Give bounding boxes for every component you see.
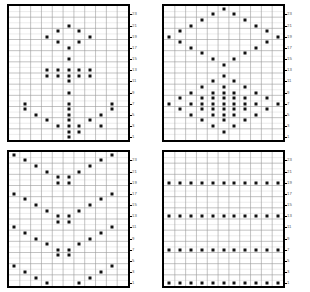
data-point: [222, 108, 225, 111]
data-point: [168, 181, 171, 184]
data-point: [67, 130, 70, 133]
data-point: [200, 102, 203, 105]
y-axis-labels-top-left: 2321191715131197531: [132, 4, 156, 142]
data-point: [211, 113, 214, 116]
data-point: [110, 153, 113, 156]
data-point: [67, 46, 70, 49]
data-point: [190, 102, 193, 105]
data-point: [200, 282, 203, 285]
y-axis-tick-label: 5: [132, 259, 134, 263]
data-point: [24, 102, 27, 105]
data-point: [45, 209, 48, 212]
data-point: [211, 80, 214, 83]
data-point: [56, 30, 59, 33]
plot-area-bottom-right: [162, 150, 285, 288]
data-point: [276, 181, 279, 184]
data-point: [56, 176, 59, 179]
data-point: [233, 58, 236, 61]
data-point: [78, 130, 81, 133]
data-point: [211, 102, 214, 105]
data-point: [45, 243, 48, 246]
data-point: [276, 102, 279, 105]
data-point: [233, 102, 236, 105]
y-axis-tick-label: 15: [287, 57, 292, 61]
data-point: [222, 119, 225, 122]
y-axis-tick-label: 13: [287, 214, 292, 218]
data-point: [222, 85, 225, 88]
data-point: [56, 254, 59, 257]
data-point: [45, 170, 48, 173]
data-point: [110, 192, 113, 195]
data-point: [110, 226, 113, 229]
data-point: [244, 215, 247, 218]
dots-layer-bottom-right: [164, 152, 283, 286]
data-point: [190, 46, 193, 49]
plot-area-top-left: [7, 4, 130, 142]
data-point: [211, 248, 214, 251]
data-point: [233, 97, 236, 100]
plot-wrap-top-right: [162, 4, 285, 142]
data-point: [190, 24, 193, 27]
data-point: [168, 35, 171, 38]
y-axis-tick-label: 7: [132, 102, 134, 106]
data-point: [233, 215, 236, 218]
data-point: [56, 220, 59, 223]
data-point: [190, 282, 193, 285]
y-axis-tick-label: 11: [132, 79, 137, 83]
data-point: [222, 181, 225, 184]
data-point: [56, 181, 59, 184]
data-point: [168, 215, 171, 218]
y-axis-tick-label: 19: [287, 35, 292, 39]
data-point: [24, 159, 27, 162]
y-axis-tick-label: 11: [132, 225, 137, 229]
y-axis-tick-label: 5: [132, 113, 134, 117]
data-point: [67, 220, 70, 223]
data-point: [67, 69, 70, 72]
data-point: [244, 102, 247, 105]
figure-root: 2321191715131197531 2321191715131197531 …: [0, 0, 310, 292]
data-point: [222, 91, 225, 94]
data-point: [45, 69, 48, 72]
data-point: [99, 113, 102, 116]
y-axis-tick-label: 5: [287, 259, 289, 263]
data-point: [78, 69, 81, 72]
data-point: [179, 97, 182, 100]
data-point: [78, 30, 81, 33]
data-point: [35, 113, 38, 116]
y-axis-tick-label: 21: [132, 169, 137, 173]
data-point: [67, 136, 70, 139]
data-point: [78, 170, 81, 173]
data-point: [233, 108, 236, 111]
data-point: [179, 282, 182, 285]
y-axis-tick-label: 17: [287, 46, 292, 50]
data-point: [200, 215, 203, 218]
data-point: [233, 125, 236, 128]
data-point: [179, 248, 182, 251]
panel-bottom-right: 2321191715131197531: [155, 146, 310, 292]
data-point: [78, 125, 81, 128]
data-point: [233, 282, 236, 285]
data-point: [45, 119, 48, 122]
y-axis-labels-bottom-left: 2321191715131197531: [132, 150, 156, 288]
y-axis-tick-label: 9: [132, 236, 134, 240]
data-point: [89, 276, 92, 279]
data-point: [222, 130, 225, 133]
data-point: [89, 164, 92, 167]
data-point: [244, 119, 247, 122]
data-point: [211, 108, 214, 111]
data-point: [89, 204, 92, 207]
data-point: [254, 24, 257, 27]
y-axis-tick-label: 3: [287, 124, 289, 128]
data-point: [56, 41, 59, 44]
data-point: [222, 102, 225, 105]
y-axis-labels-top-right: 2321191715131197531: [287, 4, 310, 142]
data-point: [276, 282, 279, 285]
data-point: [179, 30, 182, 33]
y-axis-tick-label: 1: [132, 281, 134, 285]
plot-wrap-top-left: [7, 4, 130, 142]
data-point: [200, 18, 203, 21]
y-axis-tick-label: 23: [287, 12, 292, 16]
data-point: [24, 271, 27, 274]
data-point: [233, 181, 236, 184]
data-point: [222, 113, 225, 116]
